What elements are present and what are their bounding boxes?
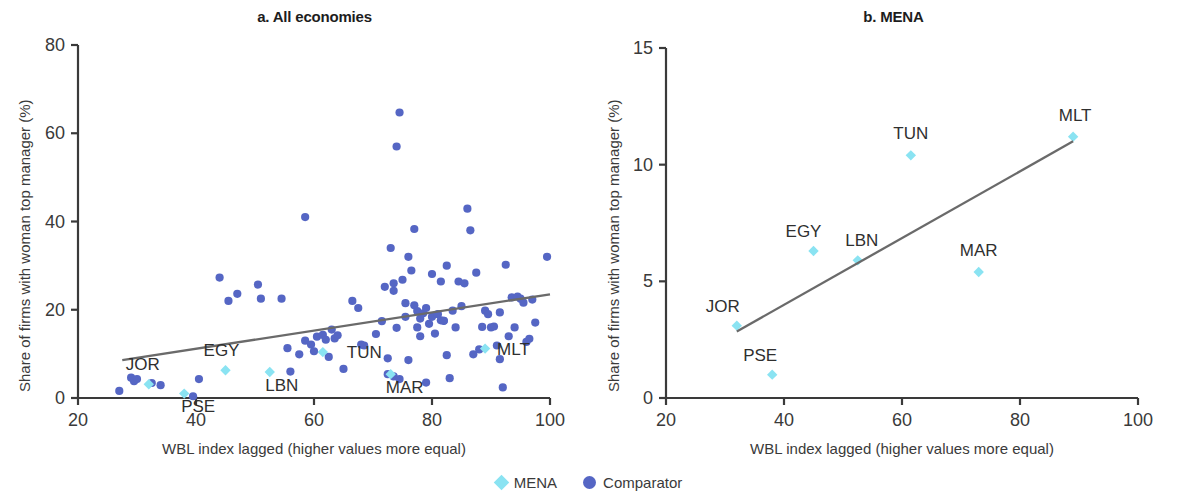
comparator-point xyxy=(422,304,430,312)
comparator-point xyxy=(216,273,224,281)
comparator-point xyxy=(301,213,309,221)
x-tick-label: 20 xyxy=(656,410,676,430)
legend-label-mena: MENA xyxy=(514,474,557,491)
point-label-mlt: MLT xyxy=(1059,106,1092,125)
comparator-point xyxy=(416,332,424,340)
legend-item-mena: MENA xyxy=(496,474,557,491)
comparator-point xyxy=(387,244,395,252)
point-label-pse: PSE xyxy=(743,346,777,365)
comparator-point xyxy=(133,375,141,383)
y-tick-label: 10 xyxy=(633,155,653,175)
comparator-point xyxy=(334,331,342,339)
comparator-point xyxy=(425,320,433,328)
comparator-point xyxy=(510,323,518,331)
x-tick-label: 60 xyxy=(892,410,912,430)
x-tick-label: 100 xyxy=(1123,410,1153,430)
mena-diamond-icon xyxy=(493,475,509,491)
y-tick-label: 15 xyxy=(633,38,653,58)
mena-point xyxy=(1068,131,1078,141)
comparator-point xyxy=(463,205,471,213)
comparator-point xyxy=(478,323,486,331)
panel-mena: b. MENA Share of firms with woman top ma… xyxy=(589,0,1178,470)
comparator-point xyxy=(384,354,392,362)
point-label-jor: JOR xyxy=(706,297,740,316)
mena-point xyxy=(808,246,818,256)
comparator-point xyxy=(431,329,439,337)
comparator-point xyxy=(490,322,498,330)
mena-point xyxy=(974,267,984,277)
comparator-point xyxy=(233,290,241,298)
comparator-point xyxy=(398,276,406,284)
point-label-jor: JOR xyxy=(126,355,160,374)
comparator-point xyxy=(499,383,507,391)
mena-point xyxy=(220,365,230,375)
comparator-point xyxy=(404,356,412,364)
comparator-point xyxy=(466,226,474,234)
comparator-point xyxy=(372,330,380,338)
point-label-mlt: MLT xyxy=(497,340,530,359)
comparator-point xyxy=(410,225,418,233)
comparator-point xyxy=(254,280,262,288)
comparator-point xyxy=(413,323,421,331)
mena-point xyxy=(767,369,777,379)
comparator-point xyxy=(472,269,480,277)
y-tick-label: 20 xyxy=(45,300,65,320)
comparator-point xyxy=(440,317,448,325)
comparator-point xyxy=(443,262,451,270)
comparator-point xyxy=(195,375,203,383)
panel-a-plot: 20406080100020406080JORPSEEGYLBNTUNMARML… xyxy=(0,0,589,470)
point-label-lbn: LBN xyxy=(845,231,878,250)
legend-label-comparator: Comparator xyxy=(603,474,682,491)
comparator-point xyxy=(446,374,454,382)
comparator-point xyxy=(428,270,436,278)
comparator-point xyxy=(484,310,492,318)
comparator-circle-icon xyxy=(583,476,596,489)
point-label-pse: PSE xyxy=(181,397,215,416)
point-label-egy: EGY xyxy=(786,222,822,241)
comparator-point xyxy=(404,253,412,261)
comparator-point xyxy=(257,295,265,303)
point-label-tun: TUN xyxy=(893,124,928,143)
comparator-point xyxy=(531,318,539,326)
panel-all-economies: a. All economies Share of firms with wom… xyxy=(0,0,589,470)
x-tick-label: 80 xyxy=(422,410,442,430)
comparator-point xyxy=(286,367,294,375)
panel-b-plot: 20406080100051015JORPSEEGYLBNTUNMARMLT xyxy=(589,0,1178,470)
comparator-point xyxy=(381,283,389,291)
comparator-point xyxy=(395,108,403,116)
comparator-point xyxy=(295,350,303,358)
comparator-point xyxy=(543,253,551,261)
comparator-point xyxy=(390,279,398,287)
comparator-point xyxy=(224,297,232,305)
y-tick-label: 60 xyxy=(45,123,65,143)
y-tick-label: 80 xyxy=(45,35,65,55)
legend-item-comparator: Comparator xyxy=(583,474,682,491)
comparator-point xyxy=(443,351,451,359)
mena-point xyxy=(906,150,916,160)
comparator-point xyxy=(390,287,398,295)
comparator-point xyxy=(348,297,356,305)
comparator-point xyxy=(354,304,362,312)
comparator-point xyxy=(322,336,330,344)
comparator-point xyxy=(115,387,123,395)
comparator-point xyxy=(502,261,510,269)
figure-root: a. All economies Share of firms with wom… xyxy=(0,0,1178,502)
comparator-point xyxy=(393,324,401,332)
comparator-point xyxy=(310,347,318,355)
y-tick-label: 0 xyxy=(55,388,65,408)
chart-legend: MENA Comparator xyxy=(0,474,1178,491)
comparator-point xyxy=(401,299,409,307)
y-tick-label: 0 xyxy=(643,388,653,408)
x-tick-label: 40 xyxy=(774,410,794,430)
comparator-point xyxy=(496,308,504,316)
comparator-point xyxy=(452,323,460,331)
comparator-point xyxy=(283,344,291,352)
y-tick-label: 40 xyxy=(45,212,65,232)
point-label-tun: TUN xyxy=(347,343,382,362)
comparator-point xyxy=(157,381,165,389)
comparator-point xyxy=(277,295,285,303)
point-label-mar: MAR xyxy=(386,378,424,397)
point-label-lbn: LBN xyxy=(265,376,298,395)
x-tick-label: 20 xyxy=(68,410,88,430)
comparator-point xyxy=(393,142,401,150)
